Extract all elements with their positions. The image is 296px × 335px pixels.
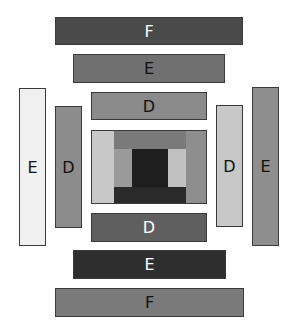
block-label: E <box>27 158 37 177</box>
block-label: D <box>223 157 235 176</box>
bottom-e-block: E <box>73 250 226 279</box>
center-core <box>132 149 168 187</box>
center-left-strip <box>92 131 114 204</box>
left-e-block: E <box>19 88 46 246</box>
top-e-block: E <box>73 54 225 83</box>
block-label: E <box>144 59 154 78</box>
left-d-block: D <box>55 106 82 228</box>
center-inner-right <box>168 149 186 187</box>
right-d-block: D <box>216 105 243 227</box>
center-bottom-band <box>114 187 186 204</box>
center-right-strip <box>186 131 207 204</box>
block-label: D <box>143 218 155 237</box>
bottom-d-block: D <box>91 213 207 242</box>
block-label: E <box>260 157 270 176</box>
block-label: D <box>143 97 155 116</box>
center-box <box>91 130 207 204</box>
center-inner-left <box>114 149 132 187</box>
block-label: F <box>144 22 153 41</box>
top-f-block: F <box>55 17 243 45</box>
top-d-block: D <box>91 92 207 120</box>
block-label: E <box>144 255 154 274</box>
bottom-f-block: F <box>55 288 244 317</box>
block-label: F <box>145 293 154 312</box>
block-label: D <box>62 158 74 177</box>
center-top-band <box>114 131 186 149</box>
right-e-block: E <box>252 87 279 246</box>
